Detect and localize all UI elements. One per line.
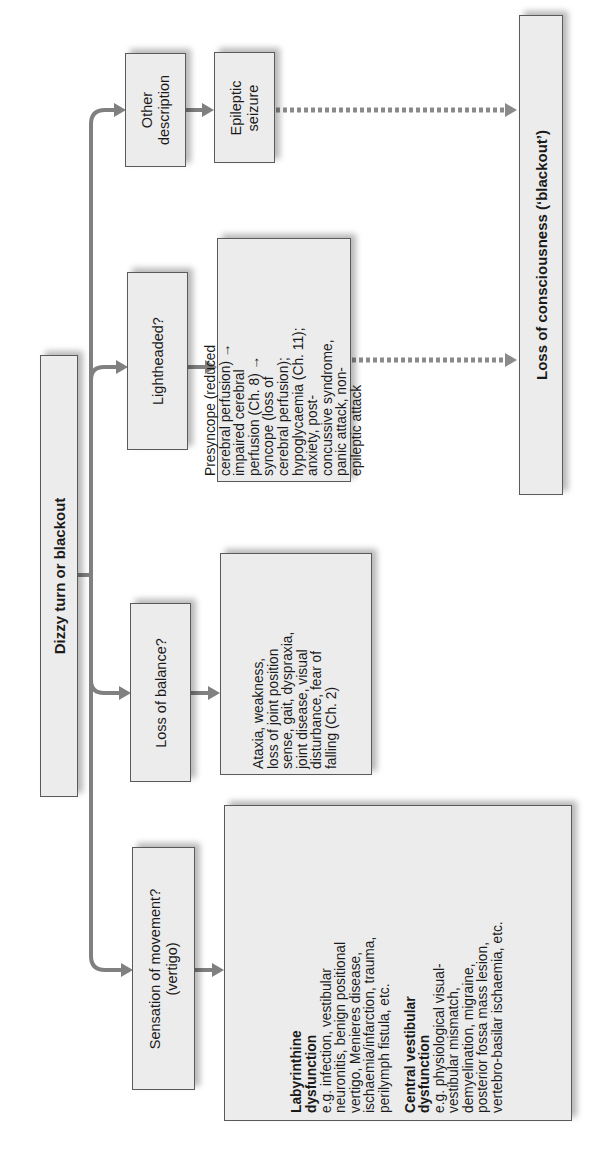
vestibular-text: Labyrinthine dysfunction e.g. infection,… [233,813,563,1113]
presyncope-line: epileptic attack [350,244,365,476]
labyrinthine-line: vertigo, Menieres disease, [349,813,364,1113]
sensation-of-movement-box: Sensation of movement? (vertigo) [132,847,195,1090]
ataxia-line: joint disease, visual [296,559,311,769]
central-vestibular-line: vertebro-basilar ischaemia, etc. [491,813,506,1113]
labyrinthine-line: perilymph fistula, etc. [378,813,393,1113]
presyncope-line: hypoglycaemia (Ch. 11); [291,244,306,476]
lightheaded-box: Lightheaded? [127,272,188,450]
presyncope-box: Presyncope (reduced cerebral perfusion) … [217,238,351,482]
presyncope-line: cerebral perfusion) → [218,244,233,476]
presyncope-line: anxiety, post- [306,244,321,476]
loss-of-balance-box: Loss of balance? [130,603,191,782]
presyncope-line: panic attack, non- [335,244,350,476]
ataxia-line: Ataxia, weakness, [252,559,267,769]
labyrinthine-heading: dysfunction [305,813,320,1113]
labyrinthine-line: neuronitis, benign positional [334,813,349,1113]
central-vestibular-line: posterior fossa mass lesion, [476,813,491,1113]
ataxia-line: disturbance, fear of [311,559,326,769]
epileptic-line-1: Epileptic [228,52,245,163]
presyncope-line: cerebral perfusion); [277,244,292,476]
other-description-text: Other description [139,53,173,167]
other-line-1: Other [139,53,156,167]
section-spacer [393,813,404,1113]
lightheaded-label: Lightheaded? [149,272,166,450]
central-vestibular-line: vestibular mismatch, [447,813,462,1113]
presyncope-text: Presyncope (reduced cerebral perfusion) … [204,244,365,476]
sensation-text: Sensation of movement? (vertigo) [147,847,181,1090]
other-description-box: Other description [125,53,186,167]
loss-of-consciousness-label: Loss of consciousness (‘blackout’) [533,15,550,495]
ataxia-line: loss of joint position [267,559,282,769]
epileptic-seizure-box: Epileptic seizure [214,52,275,163]
ataxia-text: Ataxia, weakness, loss of joint position… [252,559,340,769]
presyncope-line: Presyncope (reduced [204,244,219,476]
epileptic-seizure-text: Epileptic seizure [228,52,262,163]
epileptic-line-2: seizure [245,52,262,163]
ataxia-line: sense, gait, dyspraxia, [281,559,296,769]
presyncope-line: concussive syndrome, [320,244,335,476]
ataxia-box: Ataxia, weakness, loss of joint position… [220,553,372,775]
sensation-line-2: (vertigo) [164,847,181,1090]
other-line-2: description [156,53,173,167]
loss-of-consciousness-box: Loss of consciousness (‘blackout’) [519,15,563,495]
ataxia-line: falling (Ch. 2) [325,559,340,769]
labyrinthine-line: e.g. infection, vestibular [320,813,335,1113]
central-vestibular-heading: dysfunction [418,813,433,1113]
presyncope-line: perfusion (Ch. 8) → [248,244,263,476]
presyncope-line: impaired cerebral [233,244,248,476]
labyrinthine-line: ischaemia/infarction, trauma, [363,813,378,1113]
root-box-dizzy-turn: Dizzy turn or blackout [40,355,78,797]
central-vestibular-line: e.g. physiological visual- [433,813,448,1113]
presyncope-line: syncope (loss of [262,244,277,476]
root-label: Dizzy turn or blackout [51,355,68,797]
labyrinthine-heading: Labyrinthine [290,813,305,1113]
central-vestibular-line: demyelination, migraine, [462,813,477,1113]
vestibular-dysfunction-box: Labyrinthine dysfunction e.g. infection,… [224,805,572,1121]
sensation-line-1: Sensation of movement? [147,847,164,1090]
central-vestibular-heading: Central vestibular [404,813,419,1113]
loss-of-balance-label: Loss of balance? [152,603,169,782]
